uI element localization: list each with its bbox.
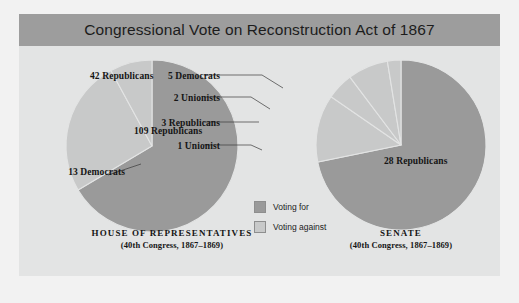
senate-caption: SENATE (40th Congress, 1867–1869) xyxy=(291,228,511,250)
infographic-root: Congressional Vote on Reconstruction Act… xyxy=(0,0,519,303)
senate-caption-line2: (40th Congress, 1867–1869) xyxy=(291,240,511,250)
leader-1-unionist-hook xyxy=(251,145,262,150)
leader-5-democrats-hook xyxy=(262,75,283,88)
house-caption: HOUSE OF REPRESENTATIVES (40th Congress,… xyxy=(62,228,282,250)
legend-swatch-voting-for xyxy=(254,201,266,213)
senate-label-3-republicans: 3 Republicans xyxy=(161,118,220,128)
legend-item-voting-for: Voting for xyxy=(254,199,326,215)
house-caption-line1: HOUSE OF REPRESENTATIVES xyxy=(62,228,282,238)
house-label-42-republicans: 42 Republicans xyxy=(90,71,153,81)
senate-label-2-unionists: 2 Unionists xyxy=(174,93,220,103)
house-label-13-democrats: 13 Democrats xyxy=(68,167,125,177)
chart-panel: Congressional Vote on Reconstruction Act… xyxy=(19,14,500,276)
senate-caption-line1: SENATE xyxy=(291,228,511,238)
senate-pie-chart xyxy=(316,60,486,230)
leader-2-unionists-hook xyxy=(251,97,270,109)
senate-label-1-unionist: 1 Unionist xyxy=(178,141,220,151)
senate-label-28-republicans: 28 Republicans xyxy=(384,156,447,166)
house-caption-line2: (40th Congress, 1867–1869) xyxy=(62,240,282,250)
legend-label-voting-for: Voting for xyxy=(273,202,309,212)
senate-label-5-democrats: 5 Democrats xyxy=(168,71,220,81)
